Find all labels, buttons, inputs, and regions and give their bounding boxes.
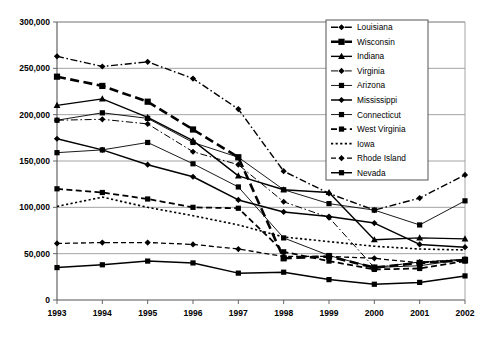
legend-label: Mississippi bbox=[357, 95, 397, 105]
series-line bbox=[57, 243, 465, 263]
marker-square bbox=[417, 280, 422, 285]
series-iowa bbox=[57, 197, 465, 250]
marker-square bbox=[145, 116, 150, 121]
marker-triangle bbox=[99, 95, 106, 101]
legend-label: Virginia bbox=[357, 66, 385, 76]
y-tick-label: 0 bbox=[45, 295, 50, 305]
legend-label: Louisiana bbox=[357, 22, 393, 32]
y-tick-label: 150,000 bbox=[19, 156, 50, 166]
marker-square bbox=[145, 258, 150, 263]
marker-diamond bbox=[54, 240, 60, 246]
marker-diamond bbox=[281, 199, 287, 205]
marker-diamond bbox=[145, 121, 151, 127]
y-tick-label: 250,000 bbox=[19, 63, 50, 73]
marker-diamond bbox=[462, 244, 468, 250]
marker-diamond bbox=[371, 255, 377, 261]
x-tick-label: 1994 bbox=[93, 308, 112, 318]
marker-square bbox=[338, 39, 344, 45]
x-tick-label: 2000 bbox=[365, 308, 384, 318]
marker-square bbox=[100, 147, 105, 152]
marker-square bbox=[190, 161, 195, 166]
x-tick-label: 2001 bbox=[410, 308, 429, 318]
legend-label: Indiana bbox=[357, 51, 385, 61]
marker-diamond bbox=[54, 53, 60, 59]
marker-square bbox=[236, 206, 241, 211]
legend-label: Nevada bbox=[357, 168, 386, 178]
marker-diamond bbox=[145, 59, 151, 65]
marker-diamond bbox=[145, 239, 151, 245]
marker-square bbox=[339, 170, 344, 175]
marker-square bbox=[145, 140, 150, 145]
series-west-virginia bbox=[54, 186, 467, 272]
marker-diamond bbox=[190, 174, 196, 180]
marker-square bbox=[281, 187, 286, 192]
marker-square bbox=[326, 277, 331, 282]
marker-square bbox=[190, 126, 196, 132]
legend-label: Connecticut bbox=[357, 110, 402, 120]
x-tick-label: 1998 bbox=[274, 308, 293, 318]
marker-diamond bbox=[54, 136, 60, 142]
x-tick-label: 2002 bbox=[456, 308, 475, 318]
marker-square bbox=[339, 126, 344, 131]
marker-square bbox=[145, 196, 150, 201]
marker-square bbox=[417, 266, 422, 271]
marker-square bbox=[100, 110, 105, 115]
legend-label: Iowa bbox=[357, 139, 375, 149]
marker-square bbox=[99, 83, 105, 89]
marker-square bbox=[417, 222, 422, 227]
marker-diamond bbox=[235, 197, 241, 203]
x-axis: 1993199419951996199719981999200020012002 bbox=[48, 300, 475, 318]
marker-square bbox=[190, 260, 195, 265]
marker-square bbox=[54, 150, 59, 155]
x-tick-label: 1999 bbox=[320, 308, 339, 318]
y-tick-label: 200,000 bbox=[19, 110, 50, 120]
marker-square bbox=[339, 112, 344, 117]
y-tick-label: 50,000 bbox=[24, 249, 50, 259]
series-nevada bbox=[54, 258, 467, 286]
marker-diamond bbox=[417, 195, 423, 201]
marker-diamond bbox=[190, 241, 196, 247]
series-rhode-island bbox=[54, 239, 468, 266]
marker-diamond bbox=[326, 214, 332, 220]
marker-square bbox=[100, 190, 105, 195]
y-tick-label: 300,000 bbox=[19, 17, 50, 27]
marker-diamond bbox=[145, 162, 151, 168]
marker-square bbox=[100, 262, 105, 267]
marker-square bbox=[462, 273, 467, 278]
x-tick-label: 1996 bbox=[184, 308, 203, 318]
x-tick-label: 1995 bbox=[138, 308, 157, 318]
marker-diamond bbox=[371, 220, 377, 226]
marker-square bbox=[462, 198, 467, 203]
marker-diamond bbox=[417, 241, 423, 247]
marker-square bbox=[372, 282, 377, 287]
series-line bbox=[57, 197, 465, 250]
series-line bbox=[57, 189, 465, 270]
marker-square bbox=[372, 208, 377, 213]
legend-label: West Virginia bbox=[357, 124, 406, 134]
x-tick-label: 1993 bbox=[48, 308, 67, 318]
legend-label: Wisconsin bbox=[357, 37, 395, 47]
legend-label: Rhode Island bbox=[357, 153, 406, 163]
marker-square bbox=[54, 186, 59, 191]
marker-diamond bbox=[235, 246, 241, 252]
line-chart: 050,000100,000150,000200,000250,000300,0… bbox=[0, 0, 482, 339]
y-tick-label: 100,000 bbox=[19, 202, 50, 212]
marker-diamond bbox=[462, 172, 468, 178]
marker-diamond bbox=[99, 239, 105, 245]
marker-square bbox=[372, 267, 377, 272]
marker-square bbox=[236, 271, 241, 276]
marker-square bbox=[326, 201, 331, 206]
marker-square bbox=[190, 205, 195, 210]
marker-square bbox=[236, 155, 241, 160]
marker-square bbox=[145, 99, 151, 105]
marker-square bbox=[54, 265, 59, 270]
legend-label: Arizona bbox=[357, 80, 386, 90]
marker-square bbox=[54, 118, 59, 123]
marker-square bbox=[190, 140, 195, 145]
marker-square bbox=[339, 83, 344, 88]
chart-canvas: 050,000100,000150,000200,000250,000300,0… bbox=[0, 0, 482, 339]
marker-square bbox=[54, 74, 60, 80]
marker-diamond bbox=[190, 149, 196, 155]
legend: LouisianaWisconsinIndianaVirginiaArizona… bbox=[326, 20, 428, 180]
x-tick-label: 1997 bbox=[229, 308, 248, 318]
